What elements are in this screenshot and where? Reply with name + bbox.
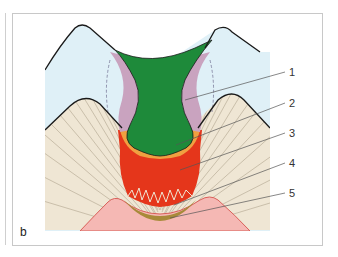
label-3: 3 [289,127,295,139]
caries-diagram: 1 2 3 4 5 b [0,0,338,257]
label-4: 4 [289,157,295,169]
label-5: 5 [289,187,295,199]
panel-letter: b [20,225,27,239]
label-1: 1 [289,66,295,78]
label-2: 2 [289,97,295,109]
